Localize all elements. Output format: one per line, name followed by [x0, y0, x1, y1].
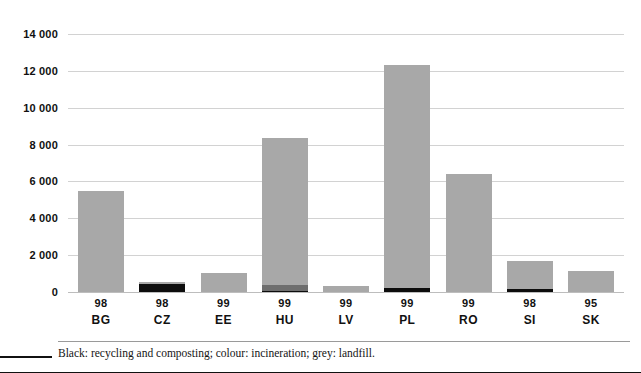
y-tick-label: 2 000: [29, 249, 58, 261]
bar-segment-recycling: [262, 291, 308, 293]
x-axis-group-ro: 99RO: [446, 296, 492, 336]
bar-group-si[interactable]: [507, 34, 553, 292]
y-axis: 14 00012 00010 0008 0006 0004 0002 0000: [0, 34, 62, 292]
bar-stack: [262, 138, 308, 292]
gridline-0: [68, 292, 624, 293]
x-axis-country-label: HU: [262, 310, 308, 330]
bar-segment-landfill: [262, 138, 308, 285]
bar-group-cz[interactable]: [139, 34, 185, 292]
footnote-legend: Black: recycling and composting; colour:…: [58, 345, 630, 361]
bar-segment-recycling: [507, 289, 553, 292]
x-axis-group-cz: 98CZ: [139, 296, 185, 336]
bar-segment-landfill: [78, 191, 124, 292]
x-axis-group-hu: 99HU: [262, 296, 308, 336]
x-axis-country-label: SK: [568, 310, 614, 330]
bar-group-bg[interactable]: [78, 34, 124, 292]
bar-segment-landfill: [507, 261, 553, 289]
x-axis-country-label: EE: [201, 310, 247, 330]
y-tick-label: 0: [52, 286, 58, 298]
bar-stack: [323, 286, 369, 292]
x-axis-country-label: RO: [446, 310, 492, 330]
bar-stack: [201, 273, 247, 292]
bar-segment-recycling: [384, 288, 430, 292]
bars-layer: [68, 34, 624, 292]
bar-group-pl[interactable]: [384, 34, 430, 292]
x-axis-year-label: 98: [78, 296, 124, 310]
x-axis-group-lv: 99LV: [323, 296, 369, 336]
x-axis-group-ee: 99EE: [201, 296, 247, 336]
bar-stack: [139, 282, 185, 292]
x-axis-group-pl: 99PL: [384, 296, 430, 336]
x-axis: 98BG98CZ99EE99HU99LV99PL99RO98SI95SK: [68, 296, 624, 336]
x-axis-year-label: 99: [201, 296, 247, 310]
bar-stack: [446, 174, 492, 292]
y-tick-label: 14 000: [23, 28, 58, 40]
bottom-left-rule: [0, 356, 52, 358]
bar-group-sk[interactable]: [568, 34, 614, 292]
x-axis-group-bg: 98BG: [78, 296, 124, 336]
bar-segment-recycling: [139, 284, 185, 292]
x-axis-country-label: PL: [384, 310, 430, 330]
bar-stack: [507, 261, 553, 292]
x-axis-group-sk: 95SK: [568, 296, 614, 336]
waste-treatment-chart-figure: 14 00012 00010 0008 0006 0004 0002 0000 …: [0, 0, 641, 373]
y-tick-label: 12 000: [23, 65, 58, 77]
x-axis-country-label: BG: [78, 310, 124, 330]
x-axis-year-label: 99: [262, 296, 308, 310]
plot-area: [68, 34, 624, 292]
y-tick-label: 10 000: [23, 102, 58, 114]
x-axis-country-label: CZ: [139, 310, 185, 330]
bar-group-hu[interactable]: [262, 34, 308, 292]
y-tick-label: 8 000: [29, 139, 58, 151]
bar-stack: [568, 271, 614, 292]
x-axis-year-label: 99: [446, 296, 492, 310]
x-axis-year-label: 98: [507, 296, 553, 310]
bar-segment-landfill: [201, 273, 247, 292]
bar-segment-landfill: [384, 65, 430, 288]
footnote-divider: [58, 341, 630, 342]
bar-group-lv[interactable]: [323, 34, 369, 292]
bar-group-ro[interactable]: [446, 34, 492, 292]
x-axis-year-label: 95: [568, 296, 614, 310]
bar-segment-landfill: [323, 286, 369, 292]
y-tick-label: 6 000: [29, 175, 58, 187]
bar-group-ee[interactable]: [201, 34, 247, 292]
x-axis-year-label: 99: [323, 296, 369, 310]
bar-stack: [384, 65, 430, 292]
x-axis-year-label: 98: [139, 296, 185, 310]
x-axis-group-si: 98SI: [507, 296, 553, 336]
bar-segment-landfill: [446, 174, 492, 292]
bar-stack: [78, 191, 124, 292]
y-tick-label: 4 000: [29, 212, 58, 224]
x-axis-country-label: LV: [323, 310, 369, 330]
x-axis-country-label: SI: [507, 310, 553, 330]
bar-segment-landfill: [568, 271, 614, 292]
x-axis-year-label: 99: [384, 296, 430, 310]
